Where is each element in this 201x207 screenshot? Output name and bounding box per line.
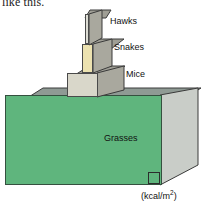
mice-label: Mice	[126, 69, 145, 79]
mice-front-face	[67, 73, 98, 97]
caption-fragment: like this.	[2, 0, 44, 10]
units-text: (kcal/m	[141, 191, 170, 201]
grasses-side-face	[160, 88, 201, 188]
energy-pyramid-figure: like this. Grasses Mice	[0, 0, 201, 207]
grasses-label: Grasses	[104, 133, 138, 143]
hawks-label: Hawks	[110, 16, 137, 26]
hawks-side-face	[89, 10, 103, 46]
snakes-front-face	[82, 44, 93, 73]
scale-reference-square	[148, 172, 160, 184]
hawks-front-face	[85, 14, 89, 44]
units-close-paren: )	[174, 191, 177, 201]
grasses-front-face	[5, 95, 162, 185]
snakes-label: Snakes	[114, 42, 144, 52]
units-label: (kcal/m2)	[141, 191, 177, 201]
